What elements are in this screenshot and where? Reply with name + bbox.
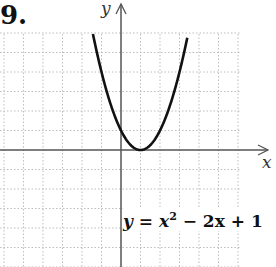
problem-number: 9. — [0, 0, 27, 30]
eq-exponent: 2 — [169, 210, 177, 223]
eq-rest: − 2x + 1 — [177, 211, 263, 231]
eq-x: x — [159, 211, 169, 231]
y-axis-label: y — [101, 0, 111, 18]
equation-label: y = x2 − 2x + 1 — [123, 207, 263, 231]
eq-lhs: y — [123, 211, 133, 231]
eq-equals: = — [133, 211, 159, 231]
x-axis-label: x — [262, 152, 272, 172]
